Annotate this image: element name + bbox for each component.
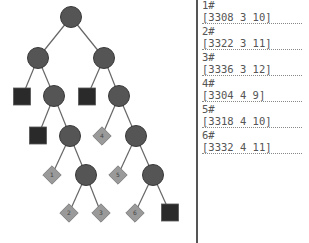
entry-id: 6#	[202, 130, 309, 141]
circle-node	[28, 48, 49, 69]
entry-value: [3322 3 11]	[202, 37, 302, 50]
result-entry: 5# [3318 4 10]	[198, 104, 309, 128]
square-node	[79, 88, 96, 105]
entry-value: [3308 3 10]	[202, 11, 302, 24]
node-label: 2	[67, 209, 71, 216]
node-label: 6	[133, 209, 137, 216]
tree-nodes: 415236	[14, 7, 179, 223]
tree-diagram: 415236	[0, 0, 196, 243]
entry-id: 1#	[202, 0, 309, 11]
circle-node	[61, 7, 82, 28]
square-node	[30, 127, 47, 144]
circle-node	[126, 126, 147, 147]
node-label: 5	[116, 171, 120, 178]
result-entry: 3# [3336 3 12]	[198, 52, 309, 76]
square-node	[14, 88, 31, 105]
entry-id: 4#	[202, 78, 309, 89]
circle-node	[94, 48, 115, 69]
entry-id: 5#	[202, 104, 309, 115]
result-entry: 1# [3308 3 10]	[198, 0, 309, 24]
node-label: 1	[50, 171, 54, 178]
node-label: 3	[99, 209, 103, 216]
entry-id: 2#	[202, 26, 309, 37]
entry-value: [3318 4 10]	[202, 115, 302, 128]
circle-node	[109, 86, 130, 107]
circle-node	[44, 86, 65, 107]
result-entry: 6# [3332 4 11]	[198, 130, 309, 154]
entry-value: [3304 4 9]	[202, 89, 302, 102]
circle-node	[143, 165, 164, 186]
entry-value: [3332 4 11]	[202, 141, 302, 154]
entry-id: 3#	[202, 52, 309, 63]
node-label: 4	[100, 132, 104, 139]
circle-node	[60, 126, 81, 147]
entry-value: [3336 3 12]	[202, 63, 302, 76]
result-entry: 2# [3322 3 11]	[198, 26, 309, 50]
square-node	[162, 204, 179, 221]
result-entry: 4# [3304 4 9]	[198, 78, 309, 102]
output-panel: 1# [3308 3 10] 2# [3322 3 11] 3# [3336 3…	[196, 0, 309, 243]
circle-node	[76, 165, 97, 186]
